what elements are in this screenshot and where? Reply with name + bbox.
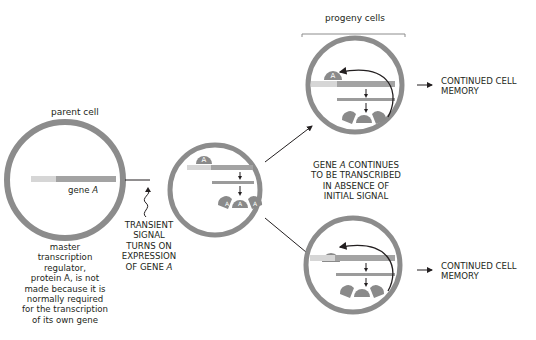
continued-memory-bottom-label: CONTINUED CELL MEMORY: [441, 261, 516, 282]
transient-signal-label: TRANSIENT SIGNAL TURNS ON EXPRESSION OF …: [118, 220, 180, 272]
parent-cell-label: parent cell: [51, 107, 99, 117]
master-regulator-note: master transcription regulator, protein …: [5, 242, 125, 325]
arrow-to-top-progeny: [265, 126, 312, 162]
parent-cell: [7, 122, 123, 238]
svg-text:A: A: [331, 72, 336, 80]
gene-promoter: [31, 176, 56, 182]
induced-cell: A A A A: [170, 145, 262, 235]
gene-continues-label: GENE A CONTINUES TO BE TRANSCRIBED IN AB…: [296, 160, 416, 202]
gene-a-label: gene A: [68, 185, 98, 195]
signal-arrow-icon: [144, 187, 151, 217]
continued-memory-top-label: CONTINUED CELL MEMORY: [441, 76, 516, 97]
svg-text:A: A: [202, 156, 207, 164]
mrna-bar: [212, 181, 254, 184]
progeny-cells-label: progeny cells: [325, 13, 385, 23]
progeny-cell-bottom: A: [306, 218, 400, 312]
progeny-cell-top: A: [308, 38, 402, 132]
gene-a-bar: [56, 176, 116, 182]
arrow-to-bottom-progeny: [265, 218, 312, 257]
